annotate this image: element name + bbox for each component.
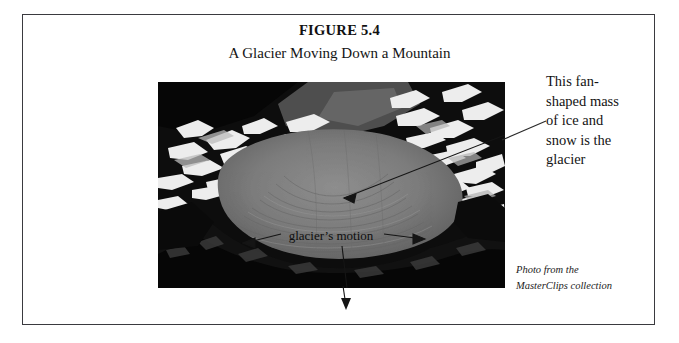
annotation-line-2: shaped mass: [546, 92, 650, 112]
annotation-line-3: of ice and: [546, 111, 650, 131]
glacier-motion-label: glacier’s motion: [289, 228, 374, 243]
annotation-line-5: glacier: [546, 150, 650, 170]
photo-credit-line-1: Photo from the: [516, 262, 646, 278]
glacier-photo-graphic: glacier’s motion: [158, 82, 505, 288]
figure-subtitle: A Glacier Moving Down a Mountain: [0, 45, 679, 62]
figure-page: FIGURE 5.4 A Glacier Moving Down a Mount…: [0, 0, 679, 343]
glacier-photograph: glacier’s motion: [158, 82, 505, 288]
photo-credit: Photo from the MasterClips collection: [516, 262, 646, 294]
figure-title: FIGURE 5.4: [0, 22, 679, 39]
glacier-annotation-text: This fan- shaped mass of ice and snow is…: [546, 72, 650, 170]
annotation-line-1: This fan-: [546, 72, 650, 92]
annotation-line-4: snow is the: [546, 131, 650, 151]
photo-credit-line-2: MasterClips collection: [516, 278, 646, 294]
